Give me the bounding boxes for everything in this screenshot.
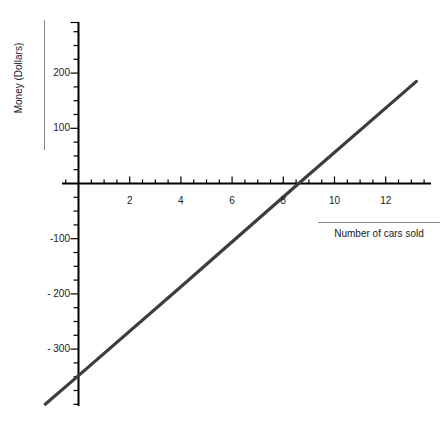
y-tick-label: - 200 xyxy=(34,289,70,299)
x-tick-label: 4 xyxy=(178,196,184,206)
y-tick-label: 200 xyxy=(34,68,70,78)
series-group xyxy=(45,81,416,404)
chart-figure: Money (Dollars) Number of cars sold 2468… xyxy=(0,0,448,421)
x-axis-title-rule xyxy=(318,222,440,223)
x-ticks-group xyxy=(66,177,424,184)
y-tick-label: -100 xyxy=(34,234,70,244)
y-ticks-group xyxy=(71,23,79,405)
series-line-0 xyxy=(45,81,416,404)
x-tick-label: 12 xyxy=(380,196,391,206)
x-axis-title: Number of cars sold xyxy=(318,229,440,239)
y-axis-title: Money (Dollars) xyxy=(14,18,24,138)
chart-plot-area xyxy=(0,0,448,421)
x-tick-label: 6 xyxy=(229,196,235,206)
x-tick-label: 2 xyxy=(127,196,133,206)
x-tick-label: 10 xyxy=(329,196,340,206)
y-tick-label: - 300 xyxy=(34,344,70,354)
x-tick-label: 8 xyxy=(281,196,287,206)
y-tick-label: 100 xyxy=(34,123,70,133)
axes-group xyxy=(62,22,431,406)
